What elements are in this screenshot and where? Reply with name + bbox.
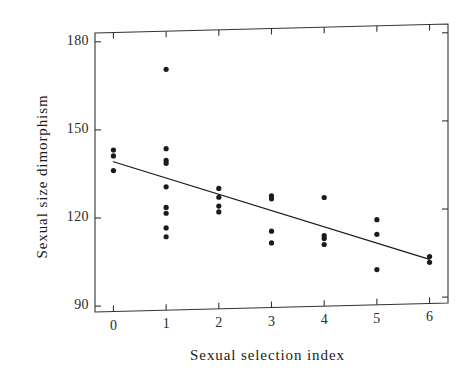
data-point [269,196,274,201]
y-axis-title: Sexual size dimorphism [34,62,51,292]
data-point [111,147,116,152]
data-point [216,209,221,214]
data-point [322,195,327,200]
data-point [322,236,327,241]
data-point [374,217,379,222]
data-point [374,232,379,237]
x-axis-title: Sexual selection index [95,347,440,364]
x-tick-label: 1 [156,316,176,332]
x-tick-label: 4 [314,312,334,328]
y-tick-label: 180 [43,33,89,49]
data-point [374,267,379,272]
y-tick-label: 90 [43,297,89,313]
data-point [427,254,432,259]
scatter-plot-figure: Sexual size dimorphism Sexual selection … [0,0,474,382]
data-point [164,184,169,189]
data-point [216,186,221,191]
x-tick-label: 2 [209,315,229,331]
tick-marks [95,24,448,311]
data-point [322,242,327,247]
data-point [111,168,116,173]
data-point [216,203,221,208]
data-point [164,67,169,72]
data-point [427,260,432,265]
data-point [164,211,169,216]
x-tick-label: 6 [420,309,440,325]
data-point [164,205,169,210]
data-point [164,146,169,151]
data-point [164,161,169,166]
axis-frame [95,24,448,312]
plot-canvas [0,0,474,382]
data-point [164,225,169,230]
x-tick-label: 0 [103,318,123,334]
data-point [269,229,274,234]
data-point [269,240,274,245]
x-tick-label: 5 [367,311,387,327]
data-point-group [111,67,432,272]
x-tick-label: 3 [262,314,282,330]
data-point [111,153,116,158]
y-tick-label: 120 [43,209,89,225]
y-tick-label: 150 [43,121,89,137]
data-point [164,234,169,239]
data-point [216,195,221,200]
